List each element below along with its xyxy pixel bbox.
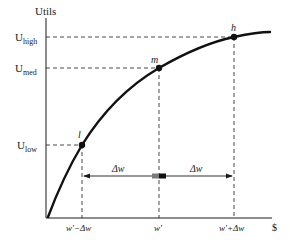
- u-low-label: Ulow: [17, 139, 37, 154]
- u-med-label: Umed: [15, 62, 37, 77]
- point-h-marker: [231, 34, 237, 40]
- u-high-label: Uhigh: [15, 31, 37, 46]
- x-axis-label: $: [272, 222, 277, 233]
- x-tick-w-plus: w′+Δw: [219, 223, 244, 233]
- delta-left-label: Δw: [111, 163, 125, 174]
- x-tick-w-minus: w′−Δw: [66, 223, 91, 233]
- lottery-box-right: [159, 174, 166, 179]
- point-m-label: m: [151, 54, 158, 65]
- point-l-marker: [79, 142, 85, 148]
- point-m-marker: [156, 65, 162, 71]
- utility-diagram: Utils Uhigh Umed Ulow l m h Δw Δw w′−Δw …: [0, 0, 290, 243]
- y-axis-label: Utils: [35, 5, 56, 17]
- delta-right-label: Δw: [189, 163, 203, 174]
- x-tick-w: w′: [154, 223, 163, 233]
- lottery-box-left: [152, 174, 159, 179]
- point-l-label: l: [78, 129, 81, 140]
- point-h-label: h: [231, 22, 236, 33]
